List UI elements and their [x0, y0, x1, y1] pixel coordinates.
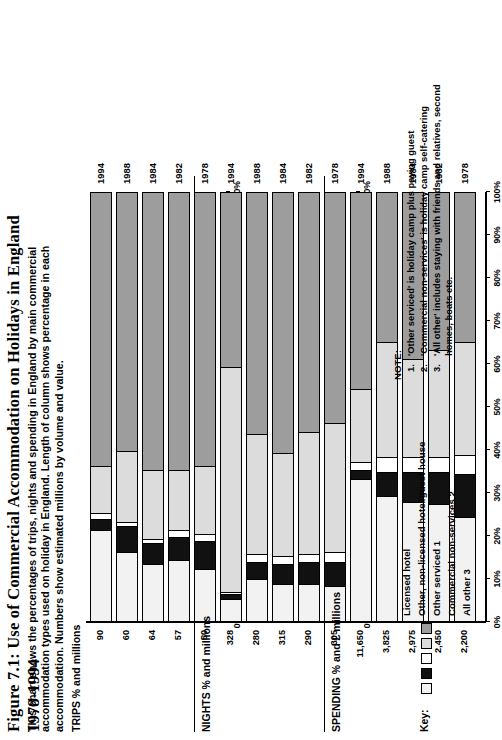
bar-value-label: 60	[121, 630, 131, 676]
bar-segment	[117, 527, 137, 553]
key-label: All other 3	[461, 569, 472, 616]
bar-segment	[91, 467, 111, 514]
bar-value-label: 290	[303, 630, 313, 676]
x-axis-ticklabel: 70%	[492, 304, 502, 338]
bar-category-label: 1994	[355, 163, 366, 184]
panel-nights: NIGHTS % and millions0%10%20%30%40%50%60…	[200, 0, 328, 740]
key-swatch	[421, 683, 432, 694]
bar-segment	[143, 193, 163, 471]
bar-segment	[351, 390, 371, 463]
bar-segment	[351, 193, 371, 390]
bar-value-label: 2,975	[407, 630, 417, 676]
bar-segment	[169, 471, 189, 531]
x-axis-ticklabel: 90%	[492, 218, 502, 252]
x-axis-ticklabel: 100%	[492, 175, 502, 209]
bar-segment	[221, 600, 241, 621]
bar-segment	[429, 458, 449, 473]
bar-segment	[247, 555, 267, 564]
bar-segment	[273, 454, 293, 557]
bar-nights-1988	[246, 192, 268, 622]
bar-segment	[143, 471, 163, 539]
panel-separator	[194, 176, 195, 732]
bar-category-label: 1994	[225, 163, 236, 184]
bar-nights-1984	[272, 192, 294, 622]
bar-category-label: 1984	[147, 163, 158, 184]
bar-segment	[117, 452, 137, 523]
bar-spending-1994	[350, 192, 372, 622]
bar-value-label: 3,825	[381, 630, 391, 676]
bar-spending-1988	[376, 192, 398, 622]
x-axis-line	[485, 192, 487, 622]
bar-segment	[91, 193, 111, 467]
bar-trips-1982	[168, 192, 190, 622]
note-number: 2.	[418, 364, 429, 372]
note-text: 'Commercial non-services' is holiday cam…	[418, 56, 430, 356]
bar-segment	[377, 193, 397, 343]
bar-category-label: 1988	[381, 163, 392, 184]
x-axis-tick	[486, 535, 490, 536]
x-axis-tick	[486, 449, 490, 450]
bar-value-label: 64	[147, 630, 157, 676]
bar-segment	[299, 585, 319, 621]
bar-segment	[169, 193, 189, 471]
bar-segment	[221, 368, 241, 593]
bar-category-label: 1982	[173, 163, 184, 184]
bar-segment	[377, 458, 397, 473]
bar-segment	[169, 538, 189, 562]
bar-segment	[91, 520, 111, 531]
bar-segment	[455, 456, 475, 475]
note-number: 3.	[431, 364, 442, 372]
key-label: Licensed hotel	[401, 549, 412, 616]
x-axis-ticklabel: 60%	[492, 347, 502, 381]
key-label: Other, non-licensed hotel/guest house	[416, 442, 427, 616]
bar-spending-1978	[454, 192, 476, 622]
bar-segment	[455, 475, 475, 518]
bar-segment	[377, 497, 397, 621]
key-swatch	[421, 668, 432, 679]
bar-value-label: 2,450	[433, 630, 443, 676]
bar-segment	[273, 565, 293, 584]
x-axis-tick	[486, 320, 490, 321]
panel-title-spending: SPENDING % and £ millions	[330, 592, 342, 732]
x-axis-ticklabel: 20%	[492, 519, 502, 553]
bar-segment	[299, 193, 319, 433]
bar-segment	[247, 580, 267, 621]
bar-segment	[455, 193, 475, 343]
bar-segment	[247, 563, 267, 580]
bar-trips-1994	[90, 192, 112, 622]
key-swatch	[421, 653, 432, 664]
bar-segment	[169, 531, 189, 537]
x-axis-tick	[486, 363, 490, 364]
x-axis-tick	[486, 578, 490, 579]
bar-segment	[247, 435, 267, 555]
bar-segment	[91, 514, 111, 520]
bar-segment	[299, 433, 319, 555]
x-axis-ticklabel: 50%	[492, 390, 502, 424]
bar-segment	[143, 544, 163, 565]
figure-subtitle: This chart shows the percentages of trip…	[26, 176, 66, 732]
bar-segment	[117, 193, 137, 452]
bar-segment	[247, 193, 267, 435]
bar-segment	[299, 555, 319, 564]
key-title: Key:	[419, 709, 430, 732]
x-axis-ticklabel: 40%	[492, 433, 502, 467]
x-axis-tick	[486, 277, 490, 278]
bar-value-label: 315	[277, 630, 287, 676]
bar-value-label: 11,650	[355, 630, 365, 676]
key-swatch	[421, 638, 432, 649]
bar-category-label: 1984	[277, 163, 288, 184]
key-swatch	[421, 623, 432, 634]
x-axis-ticklabel: 80%	[492, 261, 502, 295]
bar-nights-1994	[220, 192, 242, 622]
bar-segment	[169, 561, 189, 621]
note-text: 'All other' includes staying with friend…	[431, 56, 454, 356]
note-text: 'Other serviced' is holiday camp plus pa…	[405, 56, 417, 356]
x-axis-tick	[486, 406, 490, 407]
bar-category-label: 1978	[459, 163, 470, 184]
bar-segment	[91, 531, 111, 621]
bar-nights-1982	[298, 192, 320, 622]
bar-category-label: 1988	[251, 163, 262, 184]
bar-value-label: 328	[225, 630, 235, 676]
bar-trips-1988	[116, 192, 138, 622]
